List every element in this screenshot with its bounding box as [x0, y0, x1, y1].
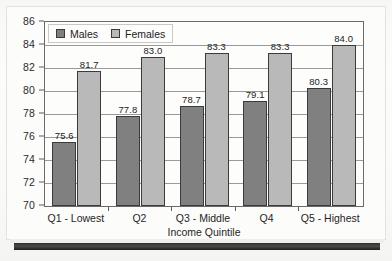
y-tick-label: 72 [23, 176, 35, 188]
plot-area: 75.681.777.883.078.783.379.183.380.384.0 [44, 21, 364, 207]
x-axis: Q1 - LowestQ2Q3 - MiddleQ4Q5 - Highest [44, 207, 364, 225]
x-tick-label: Q3 - Middle [176, 212, 230, 224]
y-tick-label: 80 [23, 84, 35, 96]
bar-value-label: 83.0 [137, 45, 169, 56]
legend-swatch-males-icon [56, 29, 65, 38]
x-tick-mark [171, 207, 172, 211]
bar-value-label: 83.3 [264, 41, 296, 52]
bar-males-4 [243, 101, 267, 206]
x-tick-label: Q2 [132, 212, 146, 224]
x-tick-label: Q1 - Lowest [47, 212, 104, 224]
bar-value-label: 80.3 [303, 76, 335, 87]
y-tick-label: 70 [23, 199, 35, 211]
legend-label-males: Males [70, 28, 98, 40]
bar-males-2 [116, 116, 140, 206]
x-tick-mark [235, 207, 236, 211]
bar-females-1 [77, 71, 101, 206]
y-tick-label: 82 [23, 61, 35, 73]
legend-swatch-females-icon [111, 29, 120, 38]
y-axis: 707274767880828486 [0, 21, 44, 207]
legend-label-females: Females [125, 28, 165, 40]
bar-value-label: 81.7 [73, 59, 105, 70]
bar-females-5 [332, 45, 356, 206]
bar-males-3 [180, 106, 204, 206]
y-tick-label: 78 [23, 107, 35, 119]
x-tick-mark [298, 207, 299, 211]
y-tick-label: 74 [23, 153, 35, 165]
bar-females-4 [268, 53, 292, 206]
chart-legend: Males Females [48, 24, 173, 43]
bar-value-label: 78.7 [176, 94, 208, 105]
y-tick-label: 76 [23, 130, 35, 142]
x-tick-label: Q5 - Highest [301, 212, 360, 224]
bar-value-label: 83.3 [201, 41, 233, 52]
bar-males-1 [52, 142, 76, 206]
bar-value-label: 75.6 [48, 130, 80, 141]
bar-females-3 [205, 53, 229, 206]
bar-value-label: 77.8 [112, 104, 144, 115]
legend-item-males: Males [56, 28, 98, 40]
bar-value-label: 84.0 [328, 33, 360, 44]
x-axis-title: Income Quintile [44, 226, 364, 238]
x-tick-label: Q4 [260, 212, 274, 224]
legend-item-females: Females [111, 28, 165, 40]
y-tick-label: 86 [23, 15, 35, 27]
bar-females-2 [141, 57, 165, 207]
chart-screenshot: 707274767880828486 75.681.777.883.078.78… [0, 0, 392, 261]
scan-edge-shadow [14, 243, 380, 250]
bar-value-label: 79.1 [239, 89, 271, 100]
x-tick-mark [108, 207, 109, 211]
bar-males-5 [307, 88, 331, 206]
y-tick-label: 84 [23, 38, 35, 50]
